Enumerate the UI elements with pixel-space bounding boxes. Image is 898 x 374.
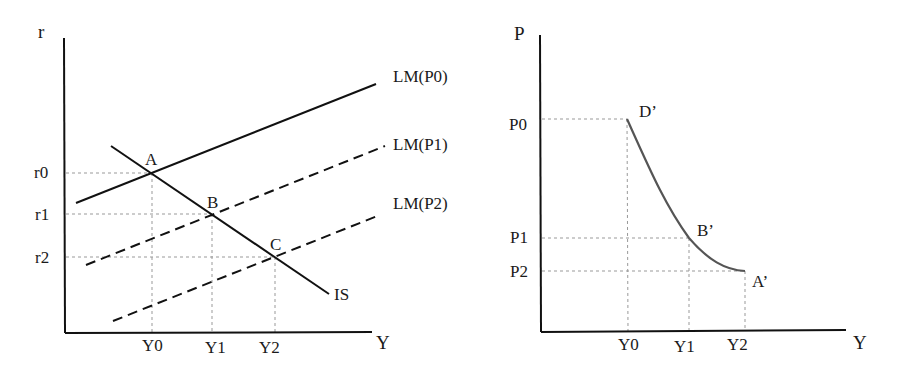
lm-p0-curve (76, 84, 376, 203)
point-a-label: A (145, 151, 157, 168)
r-axis-label: r (38, 22, 44, 41)
lm-p0-label: LM(P0) (393, 68, 448, 85)
y-axis (65, 332, 372, 333)
tick-y2: Y2 (259, 339, 280, 356)
ad-chart (540, 35, 846, 332)
tick-y2-ad: Y2 (727, 336, 748, 353)
ad-curve (627, 119, 745, 271)
tick-p0: P0 (509, 116, 527, 133)
p-axis (540, 35, 541, 332)
y-axis-label-ad: Y (853, 333, 867, 352)
guide-lines (66, 173, 275, 332)
lm-p1-curve (86, 146, 385, 265)
tick-r0: r0 (34, 164, 48, 181)
y-axis-ad (541, 330, 846, 332)
tick-y0: Y0 (142, 337, 163, 354)
diagram-canvas (0, 0, 898, 374)
is-label: IS (334, 286, 349, 303)
lm-p2-label: LM(P2) (393, 195, 448, 212)
tick-p1: P1 (510, 229, 528, 246)
lm-p2-curve (113, 215, 380, 321)
tick-r2: r2 (35, 249, 49, 266)
tick-p2: P2 (510, 263, 528, 280)
tick-y1: Y1 (205, 339, 226, 356)
lm-p1-label: LM(P1) (393, 136, 448, 153)
is-curve (111, 146, 329, 294)
p-axis-label: P (514, 24, 525, 43)
tick-r1: r1 (35, 206, 49, 223)
point-c-label: C (270, 236, 281, 253)
point-d-prime-label: D’ (639, 103, 657, 120)
tick-y1-ad: Y1 (674, 338, 695, 355)
guide-lines-ad (542, 119, 745, 331)
y-axis-label: Y (376, 333, 390, 352)
point-b-label: B (207, 194, 218, 211)
r-axis (64, 38, 65, 333)
point-b-prime-label: B’ (697, 222, 714, 239)
point-a-prime-label: A’ (752, 273, 768, 290)
tick-y0-ad: Y0 (618, 336, 639, 353)
